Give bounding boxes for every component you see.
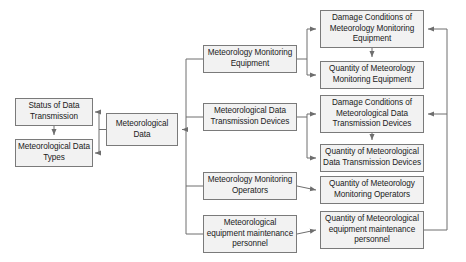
- node-label: Meteorological Data: [109, 119, 175, 141]
- node-label: Meteorological Data Types: [18, 142, 90, 164]
- node-label: Status of Data Transmission: [18, 101, 90, 123]
- node-label: Meteorology Monitoring Operators: [206, 175, 294, 197]
- node-label: Quantity of Meteorological Data Transmis…: [323, 147, 421, 169]
- node-label: Meteorology Monitoring Equipment: [206, 48, 294, 70]
- diagram-canvas: Status of Data Transmission Meteorologic…: [0, 0, 466, 262]
- node-label: Damage Conditions of Meteorology Monitor…: [323, 13, 421, 45]
- node-meteorology-monitoring-operators[interactable]: Meteorology Monitoring Operators: [203, 172, 297, 200]
- node-meteorological-equipment-maintenance-personnel[interactable]: Meteorological equipment maintenance per…: [203, 215, 297, 253]
- node-label: Meteorological Data Transmission Devices: [206, 106, 294, 128]
- node-label: Damage Conditions of Meteorological Data…: [323, 98, 421, 130]
- node-meteorological-data[interactable]: Meteorological Data: [106, 113, 178, 146]
- node-meteorology-monitoring-equipment[interactable]: Meteorology Monitoring Equipment: [203, 45, 297, 73]
- node-label: Quantity of Meteorology Monitoring Equip…: [323, 64, 421, 86]
- node-label: Meteorological equipment maintenance per…: [206, 218, 294, 250]
- edge-operators-to-quantity: [297, 186, 316, 190]
- node-label: Quantity of Meteorological equipment mai…: [323, 214, 421, 246]
- node-damage-conditions-of-meteorology-monitoring-equipment[interactable]: Damage Conditions of Meteorology Monitor…: [320, 10, 424, 48]
- edge-maintenance-to-quantity: [297, 230, 316, 234]
- node-quantity-of-meteorological-data-transmission-devices[interactable]: Quantity of Meteorological Data Transmis…: [320, 144, 424, 172]
- node-quantity-of-meteorology-monitoring-equipment[interactable]: Quantity of Meteorology Monitoring Equip…: [320, 61, 424, 89]
- node-damage-conditions-of-meteorological-data-transmission-devices[interactable]: Damage Conditions of Meteorological Data…: [320, 95, 424, 133]
- node-label: Quantity of Meteorology Monitoring Opera…: [323, 179, 421, 201]
- node-quantity-of-meteorology-monitoring-operators[interactable]: Quantity of Meteorology Monitoring Opera…: [320, 176, 424, 204]
- node-meteorological-data-transmission-devices[interactable]: Meteorological Data Transmission Devices: [203, 103, 297, 131]
- edge-feedback-to-damage-equip: [424, 29, 447, 230]
- node-quantity-of-meteorological-equipment-maintenance-personnel[interactable]: Quantity of Meteorological equipment mai…: [320, 211, 424, 249]
- node-status-of-data-transmission[interactable]: Status of Data Transmission: [15, 98, 93, 126]
- node-meteorological-data-types[interactable]: Meteorological Data Types: [15, 139, 93, 167]
